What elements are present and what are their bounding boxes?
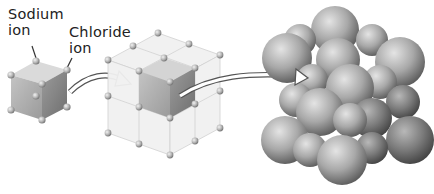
lattice: [105, 30, 224, 159]
unit-cell: [7, 57, 70, 123]
space-filling-model: [261, 6, 434, 185]
sodium-pointer-line: [32, 46, 36, 58]
nacl-lattice-diagram: [0, 0, 434, 194]
